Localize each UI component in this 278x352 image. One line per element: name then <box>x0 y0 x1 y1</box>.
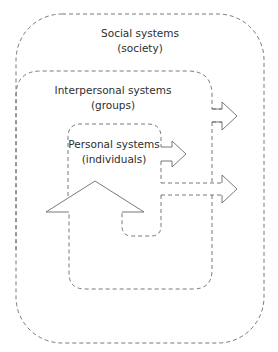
social-systems-box <box>16 14 264 343</box>
interpersonal-systems-label: Interpersonal systems (groups) <box>55 83 172 113</box>
personal-systems-title: Personal systems <box>68 137 159 152</box>
social-systems-title: Social systems <box>101 26 179 41</box>
personal-systems-subtitle: (individuals) <box>68 152 159 167</box>
social-systems-subtitle: (society) <box>101 41 179 56</box>
social-systems-label: Social systems (society) <box>101 26 179 56</box>
personal-systems-label: Personal systems (individuals) <box>68 137 159 167</box>
arrow-interpersonal-to-personal <box>46 181 144 212</box>
interpersonal-systems-title: Interpersonal systems <box>55 83 172 98</box>
arrow-interpersonal-to-social <box>212 102 237 130</box>
interpersonal-systems-subtitle: (groups) <box>55 98 172 113</box>
arrow-personal-to-interpersonal <box>161 141 186 167</box>
arrow-personal-to-social <box>161 175 237 203</box>
